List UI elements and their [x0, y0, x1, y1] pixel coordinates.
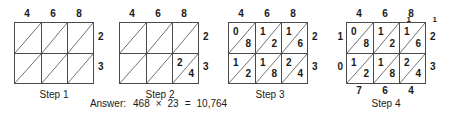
- diagonal-line-icon: [120, 54, 146, 83]
- diagonal-line-icon: [120, 23, 146, 53]
- lattice-cell: 2 4: [172, 53, 198, 83]
- cell-lower-value: 4: [297, 69, 303, 79]
- cell-upper-value: 1: [286, 27, 292, 37]
- top-digits-step-2: 4 6 8: [119, 9, 197, 19]
- lattice-row: [15, 53, 93, 83]
- top-digit: 4: [119, 9, 145, 19]
- right-digits-step-3: 2 3: [312, 22, 318, 82]
- cell-upper-value: 2: [286, 58, 292, 68]
- right-digit: 3: [430, 52, 436, 82]
- right-digit: 3: [203, 52, 209, 82]
- cell-lower-value: 8: [245, 39, 251, 49]
- right-digit: 2: [203, 22, 209, 52]
- lattice-cell: [120, 23, 146, 53]
- lattice-cell: [41, 53, 67, 83]
- lattice-cell: [146, 53, 172, 83]
- lattice-cell: [15, 23, 41, 53]
- lattice-cell: [67, 23, 93, 53]
- cell-upper-value: 1: [260, 27, 266, 37]
- lattice-cell: [67, 53, 93, 83]
- lattice-cell: 2 4: [281, 53, 307, 83]
- lattice-row: [15, 23, 93, 53]
- step-block-4: 4 6 8 1 1 1 0 0 8 1 2: [330, 0, 460, 117]
- diagonal-line-icon: [42, 23, 67, 53]
- equals-operator: =: [185, 98, 191, 109]
- lattice-row: [120, 23, 198, 53]
- lattice-row: 1 2 1 8 2 4: [229, 53, 307, 83]
- top-digits-step-3: 4 6 8: [228, 9, 306, 19]
- multiplication-operator: ×: [156, 98, 162, 109]
- lattice-row: 1 2 1 8 2 4: [347, 53, 425, 83]
- top-digit: 8: [66, 9, 92, 19]
- answer-left-operand: 468: [133, 98, 150, 109]
- lattice-cell: [146, 23, 172, 53]
- lattice-row: 0 8 1 2 1 6: [229, 23, 307, 53]
- step-caption: Step 4: [330, 99, 442, 109]
- left-sum-digit: 1: [333, 22, 343, 52]
- lattice-grid-step-3: 0 8 1 2 1 6 1 2: [228, 22, 308, 84]
- lattice-row: 0 8 1 2 1 6: [347, 23, 425, 53]
- lattice-grid-step-2: 2 4: [119, 22, 199, 84]
- top-digit: 8: [280, 9, 306, 19]
- diagonal-line-icon: [42, 54, 67, 83]
- lattice-cell: 1 2: [373, 23, 399, 53]
- top-digit: 4: [228, 9, 254, 19]
- bottom-sum-digit: 4: [398, 86, 424, 96]
- top-digit: 6: [145, 9, 171, 19]
- bottom-sum-digit: 7: [346, 86, 372, 96]
- lattice-grid-step-4: 0 8 1 2 1 6 1 2: [346, 22, 426, 84]
- diagonal-line-icon: [147, 54, 172, 83]
- lattice-cell: [172, 23, 198, 53]
- cell-lower-value: 4: [415, 69, 421, 79]
- top-digits-step-1: 4 6 8: [14, 9, 92, 19]
- lattice-cell: [15, 53, 41, 83]
- cell-lower-value: 8: [363, 39, 369, 49]
- right-digit: 3: [98, 52, 104, 82]
- diagonal-line-icon: [68, 54, 93, 83]
- bottom-sum-digit: 6: [372, 86, 398, 96]
- lattice-cell: 2 4: [399, 53, 425, 83]
- cell-lower-value: 2: [245, 69, 251, 79]
- diagonal-line-icon: [15, 23, 41, 53]
- lattice-cell: [120, 53, 146, 83]
- right-digits-step-2: 2 3: [203, 22, 209, 82]
- cell-upper-value: 0: [233, 27, 239, 37]
- right-digit: 3: [312, 52, 318, 82]
- top-digit: 8: [171, 9, 197, 19]
- top-digit: 6: [40, 9, 66, 19]
- lattice-grid-step-1: [14, 22, 94, 84]
- right-digit: 2: [430, 22, 436, 52]
- cell-upper-value: 0: [351, 27, 357, 37]
- answer-result: 10,764: [197, 98, 228, 109]
- left-sum-digit: 0: [333, 52, 343, 82]
- diagonal-line-icon: [147, 23, 172, 53]
- lattice-cell: 1 8: [255, 53, 281, 83]
- lattice-cell: 1 6: [399, 23, 425, 53]
- cell-upper-value: 1: [404, 27, 410, 37]
- lattice-cell: 0 8: [229, 23, 255, 53]
- right-digit: 2: [98, 22, 104, 52]
- cell-lower-value: 8: [271, 69, 277, 79]
- cell-lower-value: 2: [271, 39, 277, 49]
- cell-upper-value: 1: [378, 58, 384, 68]
- cell-upper-value: 1: [378, 27, 384, 37]
- lattice-cell: 1 2: [229, 53, 255, 83]
- diagonal-line-icon: [15, 54, 41, 83]
- diagonal-line-icon: [173, 23, 198, 53]
- answer-line: Answer:468×23=10,764: [0, 99, 320, 109]
- top-digit: 4: [14, 9, 40, 19]
- cell-lower-value: 6: [297, 39, 303, 49]
- lattice-cell: 0 8: [347, 23, 373, 53]
- cell-lower-value: 2: [363, 69, 369, 79]
- top-digit: 6: [254, 9, 280, 19]
- lattice-cell: 1 2: [255, 23, 281, 53]
- answer-right-operand: 23: [168, 98, 179, 109]
- lattice-cell: 1 2: [347, 53, 373, 83]
- lattice-row: 2 4: [120, 53, 198, 83]
- lattice-multiplication-figure: 4 6 8: [0, 0, 460, 117]
- cell-lower-value: 6: [415, 39, 421, 49]
- cell-lower-value: 2: [389, 39, 395, 49]
- left-sum-digits-step-4: 1 0: [333, 22, 343, 82]
- lattice-cell: 1 8: [373, 53, 399, 83]
- cell-upper-value: 1: [351, 58, 357, 68]
